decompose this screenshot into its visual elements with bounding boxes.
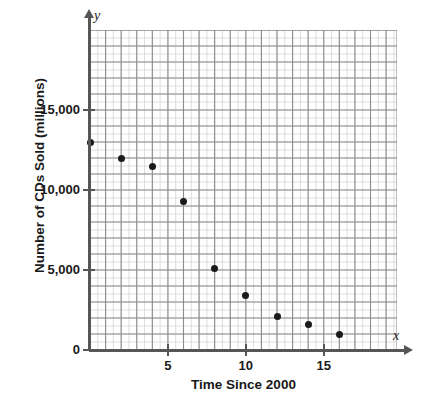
x-tick-mark (167, 344, 169, 356)
x-tick-label: 10 (226, 358, 266, 373)
x-tick-label: 5 (148, 358, 188, 373)
y-tick-label: 10,000 (14, 182, 80, 197)
y-axis-arrow-icon (84, 9, 94, 18)
data-point (211, 265, 218, 272)
y-axis-line (88, 16, 91, 351)
data-point (149, 163, 156, 170)
y-axis-title: Number of CDs Sold (millions) (32, 61, 47, 291)
y-axis-variable-label: y (94, 8, 100, 24)
x-axis-arrow-icon (404, 345, 413, 355)
data-points-layer (90, 30, 397, 350)
x-tick-mark (323, 344, 325, 356)
y-tick-mark (83, 349, 95, 351)
data-point (274, 313, 281, 320)
data-point (118, 155, 125, 162)
data-point (305, 321, 312, 328)
y-tick-label: 15,000 (14, 102, 80, 117)
y-tick-label: 0 (14, 342, 80, 357)
data-point (180, 198, 187, 205)
scatter-plot-figure: y x 05,00010,00015,00051015 Number of CD… (0, 0, 428, 406)
x-tick-label: 15 (304, 358, 344, 373)
y-tick-mark (83, 269, 95, 271)
data-point (336, 331, 343, 338)
x-axis-title: Time Since 2000 (90, 377, 397, 392)
y-tick-mark (83, 109, 95, 111)
y-tick-mark (83, 189, 95, 191)
plot-area (90, 30, 397, 350)
x-axis-line (89, 349, 406, 352)
x-axis-variable-label: x (393, 328, 399, 344)
x-tick-mark (245, 344, 247, 356)
y-tick-label: 5,000 (14, 262, 80, 277)
data-point (242, 292, 249, 299)
